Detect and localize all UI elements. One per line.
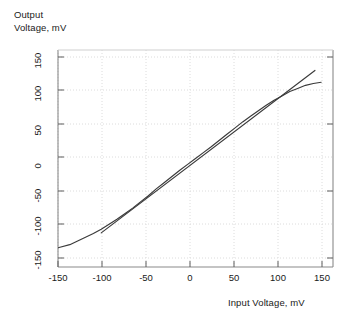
xtick-label-150: 150 <box>302 272 342 283</box>
ytick-label-0: 0 <box>24 150 50 164</box>
ytick-label-neg150: -150 <box>24 251 50 265</box>
xtick-label-50: 50 <box>214 272 254 283</box>
x-axis-ticks <box>58 261 322 267</box>
xtick-label-neg50: -50 <box>126 272 166 283</box>
ytick-label-neg100: -100 <box>24 217 50 231</box>
xtick-label-100: 100 <box>258 272 298 283</box>
xtick-label-0: 0 <box>170 272 210 283</box>
ytick-label-150: 150 <box>24 50 50 64</box>
ytick-label-neg50: -50 <box>24 184 50 198</box>
xtick-label-neg100: -100 <box>82 272 122 283</box>
ytick-label-50: 50 <box>24 117 50 131</box>
ytick-label-100: 100 <box>24 83 50 97</box>
chart-screenshot: Output Voltage, mV <box>0 0 356 320</box>
xtick-label-neg150: -150 <box>38 272 78 283</box>
y-axis-ticks <box>58 57 333 258</box>
x-axis-label: Input Voltage, mV <box>228 297 305 308</box>
series-ideal-linear <box>101 70 315 232</box>
